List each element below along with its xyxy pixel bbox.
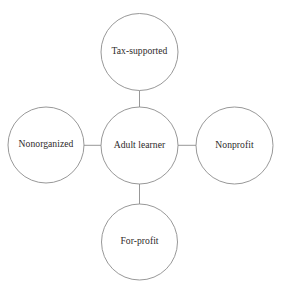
node-tax-supported[interactable]: Tax-supported: [101, 14, 178, 91]
node-adult-learner[interactable]: Adult learner: [101, 107, 178, 184]
node-nonprofit[interactable]: Nonprofit: [196, 107, 273, 184]
node-for-profit[interactable]: For-profit: [102, 204, 178, 280]
node-label-for-profit: For-profit: [120, 235, 158, 246]
node-label-tax-supported: Tax-supported: [112, 45, 168, 56]
node-label-nonprofit: Nonprofit: [215, 139, 254, 150]
node-label-nonorganized: Nonorganized: [19, 138, 74, 149]
diagram-svg: Tax-supported Nonorganized Nonprofit For…: [0, 0, 281, 287]
node-label-adult-learner: Adult learner: [114, 139, 166, 150]
node-nonorganized[interactable]: Nonorganized: [8, 107, 84, 183]
diagram-canvas: Tax-supported Nonorganized Nonprofit For…: [0, 0, 281, 287]
